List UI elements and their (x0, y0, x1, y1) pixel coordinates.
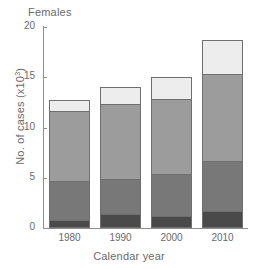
y-axis-tick-label: 20 (5, 20, 35, 31)
x-axis-title: Calendar year (0, 250, 258, 262)
x-axis-tick-label-2010: 2010 (193, 232, 253, 243)
y-axis-tick (43, 178, 47, 179)
bar-2010[interactable] (202, 27, 243, 228)
bar-segment-segment-4-top-1990[interactable] (100, 87, 141, 105)
y-axis-tick (43, 228, 47, 229)
y-axis-tick-label: 5 (5, 171, 35, 182)
y-axis-tick (43, 77, 47, 78)
bar-segment-segment-3-2000[interactable] (151, 99, 192, 174)
bar-segment-segment-2-2000[interactable] (151, 174, 192, 217)
bar-segment-segment-2-1990[interactable] (100, 179, 141, 215)
bar-segment-segment-1-bottom-1990[interactable] (100, 214, 141, 228)
y-axis-tick (43, 128, 47, 129)
bar-segment-segment-3-1980[interactable] (49, 111, 90, 181)
chart-figure: Females No. of cases (x103) 05101520 198… (0, 0, 258, 269)
bar-segment-segment-3-1990[interactable] (100, 104, 141, 179)
bar-segment-segment-2-1980[interactable] (49, 181, 90, 221)
y-axis-tick-label: 0 (5, 221, 35, 232)
y-axis-tick (43, 27, 47, 28)
bar-segment-segment-4-top-2010[interactable] (202, 40, 243, 75)
bar-segment-segment-1-bottom-2000[interactable] (151, 216, 192, 228)
panel-title: Females (28, 6, 72, 18)
bar-1980[interactable] (49, 27, 90, 228)
y-axis-tick-label: 15 (5, 70, 35, 81)
bar-segment-segment-4-top-2000[interactable] (151, 77, 192, 100)
bar-2000[interactable] (151, 27, 192, 228)
bar-1990[interactable] (100, 27, 141, 228)
x-axis-line (43, 228, 248, 229)
bar-segment-segment-1-bottom-2010[interactable] (202, 211, 243, 228)
bar-segment-segment-3-2010[interactable] (202, 74, 243, 161)
bar-segment-segment-1-bottom-1980[interactable] (49, 220, 90, 228)
bar-segment-segment-2-2010[interactable] (202, 161, 243, 212)
y-axis-tick-label: 10 (5, 121, 35, 132)
